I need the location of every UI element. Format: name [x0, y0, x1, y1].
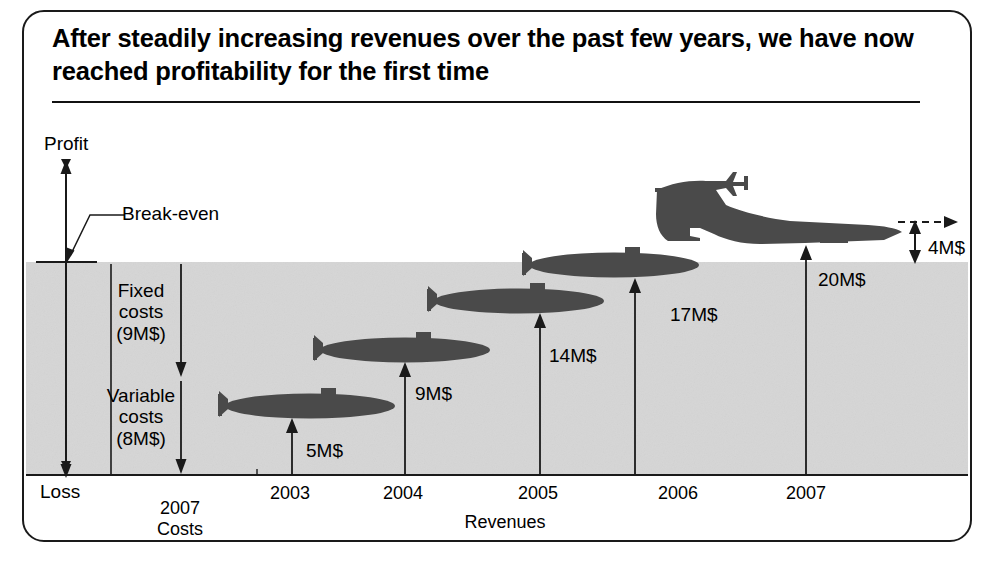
variable-costs-line2: costs — [96, 406, 186, 427]
x-tick-2007: 2007 — [786, 483, 826, 504]
slide-root: After steadily increasing revenues over … — [0, 0, 993, 564]
profit-gap-arrow — [909, 220, 921, 264]
y-axis-top-label: Profit — [44, 133, 88, 155]
cost-caption-text: Costs — [115, 519, 245, 540]
x-tick-2006: 2006 — [658, 483, 698, 504]
fixed-costs-label: Fixed costs (9M$) — [106, 280, 176, 344]
variable-costs-label: Variable costs (8M$) — [96, 385, 186, 449]
value-label-2005: 14M$ — [549, 345, 597, 367]
profit-altitude-line — [898, 216, 958, 228]
cost-caption-year: 2007 — [115, 498, 245, 519]
value-label-2003: 5M$ — [306, 440, 343, 462]
fixed-costs-line1: Fixed — [106, 280, 176, 301]
variable-costs-line1: Variable — [96, 385, 186, 406]
vessel-2006 — [522, 247, 699, 278]
cost-column-caption: 2007 Costs — [115, 498, 245, 539]
y-axis-bottom-label: Loss — [40, 481, 80, 503]
breakeven-label: Break-even — [122, 203, 219, 225]
value-label-2004: 9M$ — [415, 383, 452, 405]
fixed-costs-line3: (9M$) — [106, 323, 176, 344]
fixed-costs-line2: costs — [106, 301, 176, 322]
x-tick-2005: 2005 — [518, 483, 558, 504]
value-label-2007: 20M$ — [818, 269, 866, 291]
variable-costs-line3: (8M$) — [96, 428, 186, 449]
x-axis-title: Revenues — [425, 512, 585, 533]
x-tick-2004: 2004 — [383, 483, 423, 504]
profit-gap-label: 4M$ — [928, 237, 965, 259]
x-tick-2003: 2003 — [270, 483, 310, 504]
value-label-2006: 17M$ — [670, 304, 718, 326]
vessel-2007-aircraft — [655, 172, 902, 244]
breakeven-leader — [66, 215, 125, 264]
